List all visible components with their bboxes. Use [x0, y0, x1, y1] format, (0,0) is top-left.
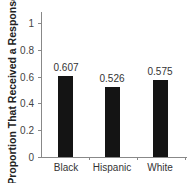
bar-value-label: 0.607 — [53, 62, 78, 73]
y-axis-label: Proportion That Received a Response — [6, 0, 18, 183]
bar-value-label: 0.575 — [147, 66, 172, 77]
x-tick — [185, 157, 186, 160]
y-tick — [38, 157, 41, 158]
x-tick-label: Black — [54, 162, 78, 173]
x-tick-label: White — [147, 162, 173, 173]
y-tick — [38, 77, 41, 78]
x-tick — [137, 157, 138, 160]
y-tick — [38, 50, 41, 51]
bar-value-label: 0.526 — [99, 73, 124, 84]
x-axis-line — [41, 157, 187, 158]
y-axis-line — [41, 12, 42, 158]
y-tick-label: 0.4 — [20, 98, 34, 109]
x-tick — [89, 157, 90, 160]
y-tick — [38, 130, 41, 131]
y-tick-label: 0 — [28, 152, 34, 163]
bar-hispanic — [105, 87, 120, 157]
y-tick-label: 1 — [28, 18, 34, 29]
bar-white — [153, 80, 168, 157]
x-tick-label: Hispanic — [93, 162, 131, 173]
y-tick — [38, 103, 41, 104]
y-tick-label: 0.6 — [20, 72, 34, 83]
bar-chart: Proportion That Received a Response 0 0.… — [0, 0, 193, 183]
y-tick-label: 0.8 — [20, 45, 34, 56]
bar-black — [58, 76, 73, 157]
y-tick — [38, 23, 41, 24]
y-tick-label: 0.2 — [20, 125, 34, 136]
